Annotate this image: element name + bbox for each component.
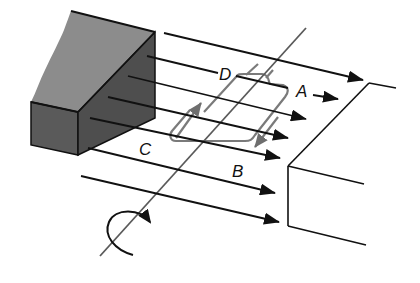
force-arrow-a	[313, 95, 338, 99]
right-magnet-pole	[288, 83, 396, 245]
label-b: B	[232, 162, 243, 181]
label-a: A	[295, 82, 307, 101]
field-line-2	[147, 56, 218, 73]
label-d: D	[219, 65, 231, 84]
motor-principle-diagram: D A C B	[0, 0, 420, 283]
rotation-arrow-icon	[107, 212, 150, 256]
field-line-6	[88, 148, 275, 193]
label-c: C	[139, 140, 152, 159]
diagram-canvas: D A C B	[0, 0, 420, 283]
field-line-7	[81, 176, 279, 222]
left-magnet-pole	[31, 11, 155, 155]
field-line-1	[164, 33, 363, 80]
